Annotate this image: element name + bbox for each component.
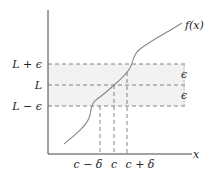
x-axis-label: x [193, 148, 200, 161]
epsilon-delta-diagram: ϵ ϵ f(x) x L + ϵ L L − ϵ c − δ c c + δ [0, 0, 218, 178]
lower-epsilon-label: ϵ [181, 89, 187, 102]
epsilon-band [48, 64, 185, 106]
c-minus-delta-label: c − δ [74, 158, 103, 171]
function-label: f(x) [184, 19, 204, 32]
upper-bound-label: L + ϵ [11, 58, 42, 71]
c-label: c [111, 158, 117, 171]
lower-bound-label: L − ϵ [11, 100, 42, 113]
upper-epsilon-label: ϵ [181, 68, 187, 81]
limit-label: L [34, 79, 42, 92]
c-plus-delta-label: c + δ [126, 158, 155, 171]
